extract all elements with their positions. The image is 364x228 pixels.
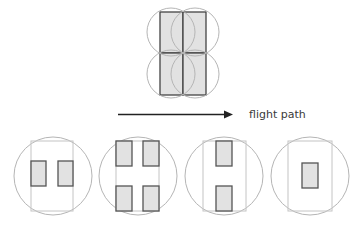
pattern-four-corners: [99, 137, 177, 215]
pattern-two-stacked: [185, 137, 263, 215]
inner-rect: [116, 186, 132, 211]
footprint-circle: [99, 137, 177, 215]
inner-rect: [216, 141, 232, 166]
inner-rect: [302, 163, 318, 188]
inner-rect: [58, 161, 73, 186]
flight-path-label: flight path: [249, 108, 306, 121]
arrow-head-icon: [224, 111, 233, 119]
inner-rect: [143, 141, 159, 166]
inner-rect: [143, 186, 159, 211]
pattern-single-center: [271, 137, 349, 215]
footprint-circle: [14, 137, 92, 215]
inner-rect: [216, 186, 232, 211]
inner-rect: [116, 141, 132, 166]
flight-path-diagram: flight path: [0, 0, 364, 228]
flight-path-arrow: [118, 111, 233, 119]
inner-rect: [31, 161, 46, 186]
pattern-two-side-by-side: [14, 137, 92, 215]
top-grid-figure: [147, 8, 219, 98]
